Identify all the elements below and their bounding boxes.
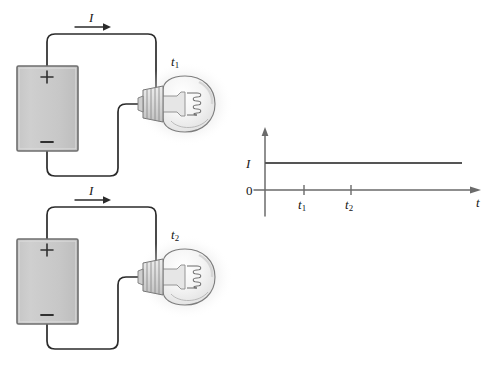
current-label-bottom: I bbox=[89, 184, 93, 197]
graph-tick-label-t2: t2 bbox=[345, 198, 353, 213]
graph-y-axis bbox=[262, 127, 269, 216]
graph-x-axis-label: t bbox=[476, 196, 480, 209]
graph-x-axis bbox=[254, 186, 481, 193]
circuit-top bbox=[17, 23, 233, 176]
graph-origin-label: 0 bbox=[246, 184, 253, 197]
time-label-t2-circuit: t2 bbox=[171, 228, 179, 243]
current-vs-time-graph bbox=[254, 127, 481, 216]
light-bulb-top bbox=[137, 62, 233, 146]
light-bulb-bottom bbox=[137, 235, 233, 319]
graph-tick-label-t1: t1 bbox=[298, 198, 306, 213]
figure-root: I I t1 t2 I 0 t1 t2 t bbox=[0, 0, 498, 373]
current-label-top: I bbox=[89, 11, 93, 24]
time-label-t1-circuit: t1 bbox=[171, 55, 179, 70]
graph-y-axis-label: I bbox=[246, 157, 250, 170]
circuit-bottom bbox=[17, 196, 233, 349]
